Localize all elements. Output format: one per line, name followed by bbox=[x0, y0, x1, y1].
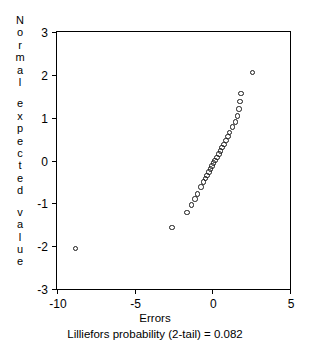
data-point bbox=[230, 124, 235, 129]
data-point bbox=[184, 210, 189, 215]
data-point bbox=[233, 119, 238, 124]
x-axis-tick-label: 0 bbox=[210, 297, 217, 311]
plot-frame: -3-2-10123-10-505 bbox=[56, 31, 291, 290]
y-axis-tick-label: -2 bbox=[37, 240, 48, 254]
x-axis-tick: -5 bbox=[135, 289, 136, 294]
data-point bbox=[189, 202, 194, 207]
y-axis-label-char: r bbox=[18, 39, 22, 51]
y-axis-label-char: e bbox=[17, 97, 23, 109]
y-axis-label-char: o bbox=[17, 26, 23, 38]
y-axis-tick-label: 2 bbox=[41, 69, 48, 83]
y-axis-label-char: e bbox=[17, 255, 23, 267]
data-point bbox=[235, 113, 240, 118]
data-point bbox=[236, 106, 241, 111]
y-axis-tick-label: 0 bbox=[41, 155, 48, 169]
y-axis-label-char: c bbox=[17, 147, 23, 159]
y-axis-label-char: l bbox=[19, 231, 21, 243]
x-axis-tick-label: 5 bbox=[288, 297, 295, 311]
x-axis-tick-label: -10 bbox=[49, 297, 66, 311]
data-point bbox=[169, 225, 174, 230]
y-axis-label-char: v bbox=[17, 206, 23, 218]
data-point bbox=[198, 184, 203, 189]
y-axis-label-word: Normal bbox=[15, 14, 24, 88]
y-axis-tick: 3 bbox=[52, 32, 57, 33]
y-axis-tick-label: -1 bbox=[37, 197, 48, 211]
y-axis-tick: 1 bbox=[52, 118, 57, 119]
x-axis-tick-label: -5 bbox=[130, 297, 141, 311]
lilliefors-annotation: Lilliefors probability (2-tail) = 0.082 bbox=[0, 328, 310, 340]
data-point bbox=[250, 70, 255, 75]
data-point bbox=[227, 130, 232, 135]
y-axis-label-char: a bbox=[17, 64, 23, 76]
normal-probability-plot-figure: Normalexpectedvalue -3-2-10123-10-505 Er… bbox=[0, 0, 310, 350]
y-axis-tick: -2 bbox=[52, 246, 57, 247]
data-point bbox=[237, 99, 242, 104]
y-axis-label-word: expected bbox=[17, 97, 23, 196]
data-point bbox=[195, 191, 200, 196]
y-axis-label-char: u bbox=[17, 243, 23, 255]
x-axis-tick: -10 bbox=[57, 289, 58, 294]
data-point bbox=[192, 196, 197, 201]
y-axis-tick-label: 1 bbox=[41, 112, 48, 126]
y-axis-tick: 0 bbox=[52, 161, 57, 162]
data-point bbox=[238, 91, 243, 96]
y-axis-label-char: N bbox=[16, 14, 24, 26]
y-axis-label: Normalexpectedvalue bbox=[10, 14, 30, 294]
y-axis-label-char: x bbox=[17, 110, 23, 122]
data-point bbox=[73, 246, 78, 251]
y-axis-label-char: e bbox=[17, 172, 23, 184]
y-axis-tick: 2 bbox=[52, 75, 57, 76]
y-axis-label-char: a bbox=[17, 218, 23, 230]
x-axis-tick: 0 bbox=[212, 289, 213, 294]
y-axis-label-char: m bbox=[15, 51, 24, 63]
y-axis-tick-label: -3 bbox=[37, 283, 48, 297]
y-axis-tick-label: 3 bbox=[41, 26, 48, 40]
x-axis-tick: 5 bbox=[290, 289, 291, 294]
x-axis-label: Errors bbox=[0, 312, 310, 324]
y-axis-label-char: d bbox=[17, 184, 23, 196]
y-axis-label-char: t bbox=[18, 159, 21, 171]
plot-area bbox=[57, 32, 290, 289]
y-axis-label-char: p bbox=[17, 122, 23, 134]
y-axis-tick: -1 bbox=[52, 203, 57, 204]
y-axis-label-word: value bbox=[17, 206, 23, 268]
y-axis-label-char: e bbox=[17, 135, 23, 147]
y-axis-label-char: l bbox=[19, 76, 21, 88]
